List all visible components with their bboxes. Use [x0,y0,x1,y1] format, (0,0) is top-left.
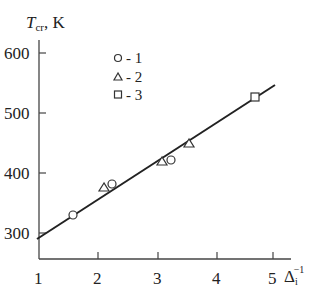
legend: - 1 - 2 - 3 [114,50,142,103]
x-tick-label: 4 [212,269,221,288]
legend-label: - 1 [126,50,142,66]
legend-circle-icon [115,55,122,62]
x-tick-label: 5 [268,269,277,288]
legend-triangle-icon [114,73,122,80]
chart: 600 500 400 300 1 2 3 4 5 Tcr, K Δi−1 - … [0,0,309,290]
y-tick-label: 400 [4,164,30,183]
x-tick-label: 1 [34,269,43,288]
y-tick-label: 500 [4,104,30,123]
series-3-points [251,93,259,101]
x-ticks [98,252,273,259]
legend-label: - 2 [126,69,142,85]
x-axis-label: Δi−1 [284,264,304,287]
y-tick-label: 600 [4,44,30,63]
x-tick-label: 2 [93,269,102,288]
y-axis-label: Tcr, K [26,13,66,33]
y-tick-label: 300 [4,224,30,243]
legend-square-icon [115,91,122,98]
legend-label: - 3 [126,87,142,103]
x-tick-label: 3 [153,269,162,288]
y-ticks [39,53,46,233]
